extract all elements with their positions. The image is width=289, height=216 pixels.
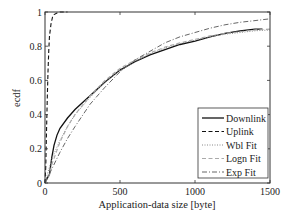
y-tick-label: 0.2 bbox=[30, 143, 43, 154]
x-tick-label: 0 bbox=[43, 186, 48, 197]
y-tick-label: 0.4 bbox=[30, 109, 43, 120]
ecdf-chart: 050010001500 00.20.40.60.81 Application-… bbox=[0, 0, 289, 216]
x-tick-label: 1000 bbox=[185, 186, 205, 197]
x-tick-label: 500 bbox=[113, 186, 128, 197]
legend-label: Wbl Fit bbox=[226, 140, 257, 151]
y-axis-label: ecdf bbox=[11, 88, 22, 107]
y-tick-label: 0.6 bbox=[30, 75, 43, 86]
y-tick-label: 0 bbox=[37, 178, 42, 189]
series-line-uplink bbox=[45, 12, 68, 183]
x-tick-label: 1500 bbox=[260, 186, 280, 197]
legend-label: Downlink bbox=[226, 113, 266, 124]
y-tick-label: 1 bbox=[37, 7, 42, 18]
legend-label: Logn Fit bbox=[226, 153, 261, 164]
legend: DownlinkUplinkWbl FitLogn FitExp Fit bbox=[198, 108, 268, 178]
y-tick-label: 0.8 bbox=[30, 41, 43, 52]
x-axis-label: Application-data size [byte] bbox=[98, 199, 215, 210]
legend-label: Exp Fit bbox=[226, 167, 256, 178]
legend-label: Uplink bbox=[226, 126, 254, 137]
